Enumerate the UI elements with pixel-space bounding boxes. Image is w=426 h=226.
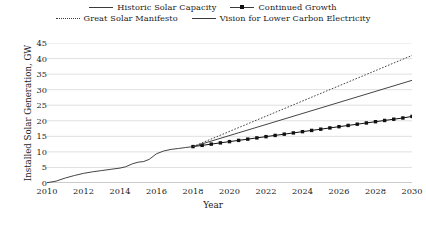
plot-svg <box>47 43 412 183</box>
x-axis-tick-label: 2022 <box>256 186 277 196</box>
data-point-marker <box>310 129 313 132</box>
x-axis-tick-label: 2014 <box>110 186 131 196</box>
data-point-marker <box>283 132 286 135</box>
data-point-marker <box>210 142 213 145</box>
x-axis-title: Year <box>0 200 426 210</box>
x-axis-tick-label: 2020 <box>219 186 240 196</box>
data-point-marker <box>346 124 349 127</box>
legend-row: Historic Solar Capacity Continued Growth <box>82 2 343 12</box>
data-point-marker <box>410 115 412 118</box>
legend-entry-continued-growth[interactable]: Continued Growth <box>230 2 336 12</box>
line-solid-icon <box>89 3 113 12</box>
y-axis-tick-label: 5 <box>0 162 47 172</box>
y-axis-tick-label: 25 <box>0 100 47 110</box>
x-axis-tick-label: 2030 <box>402 186 423 196</box>
legend-entry-historic-solar-capacity[interactable]: Historic Solar Capacity <box>89 2 216 12</box>
data-point-marker <box>392 118 395 121</box>
x-axis-tick-label: 2026 <box>329 186 350 196</box>
data-point-marker <box>337 125 340 128</box>
plot-area <box>47 43 412 183</box>
data-point-marker <box>356 123 359 126</box>
x-axis-tick-label: 2024 <box>292 186 313 196</box>
solar-generation-line-chart: Historic Solar Capacity Continued Growth… <box>0 0 426 226</box>
legend-row: Great Solar Manifesto Vision for Lower C… <box>49 13 378 23</box>
legend-entry-vision-for-lower-carbon-electricity[interactable]: Vision for Lower Carbon Electricity <box>192 13 371 23</box>
data-point-marker <box>383 119 386 122</box>
line-solid-icon <box>192 14 216 23</box>
data-point-marker <box>328 126 331 129</box>
data-point-marker <box>365 121 368 124</box>
y-axis-tick-label: 35 <box>0 69 47 79</box>
chart-legend: Historic Solar Capacity Continued Growth… <box>0 2 426 23</box>
data-point-marker <box>264 135 267 138</box>
data-point-marker <box>255 136 258 139</box>
line-dotted-icon <box>56 14 80 23</box>
data-point-marker <box>228 140 231 143</box>
legend-label: Continued Growth <box>258 2 336 12</box>
x-axis-tick-label: 2012 <box>73 186 94 196</box>
data-point-marker <box>237 139 240 142</box>
data-point-marker <box>292 131 295 134</box>
legend-label: Historic Solar Capacity <box>117 2 216 12</box>
y-axis-tick-label: 15 <box>0 131 47 141</box>
data-point-marker <box>401 116 404 119</box>
y-axis-tick-label: 45 <box>0 38 47 48</box>
x-axis-tick-label: 2028 <box>365 186 386 196</box>
y-axis-tick-label: 40 <box>0 54 47 64</box>
data-point-marker <box>219 141 222 144</box>
x-axis-tick-label: 2010 <box>37 186 58 196</box>
data-point-marker <box>273 134 276 137</box>
legend-label: Vision for Lower Carbon Electricity <box>220 13 371 23</box>
y-axis-tick-label: 20 <box>0 116 47 126</box>
data-point-marker <box>301 130 304 133</box>
x-axis-tick-label: 2016 <box>146 186 167 196</box>
data-point-marker <box>246 137 249 140</box>
y-axis-tick-label: 10 <box>0 147 47 157</box>
y-axis-tick-label: 30 <box>0 85 47 95</box>
legend-label: Great Solar Manifesto <box>84 13 178 23</box>
legend-entry-great-solar-manifesto[interactable]: Great Solar Manifesto <box>56 13 178 23</box>
x-axis-tick-label: 2018 <box>183 186 204 196</box>
data-point-marker <box>319 127 322 130</box>
line-solid-square-marker-icon <box>230 3 254 12</box>
data-point-marker <box>374 120 377 123</box>
